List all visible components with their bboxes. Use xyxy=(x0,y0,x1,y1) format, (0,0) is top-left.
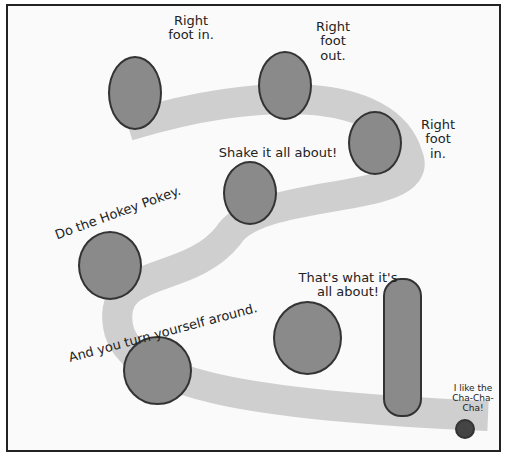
bean-character xyxy=(108,56,162,130)
caption: That's what it's all about! xyxy=(293,271,403,300)
caption: Shake it all about! xyxy=(178,146,378,160)
bean-character xyxy=(258,51,312,120)
caption: Right foot out. xyxy=(308,20,358,63)
caption: Right foot in. xyxy=(418,118,458,161)
tiny-bean-character xyxy=(455,419,475,439)
caption: I like the Cha-Cha-Cha! xyxy=(443,384,503,414)
bean-character xyxy=(223,161,277,225)
caption: Right foot in. xyxy=(166,14,216,43)
comic-panel: Right foot in. Right foot out. Right foo… xyxy=(6,4,501,452)
bean-character xyxy=(348,111,402,175)
bean-character xyxy=(273,301,342,375)
bean-character xyxy=(78,231,142,300)
